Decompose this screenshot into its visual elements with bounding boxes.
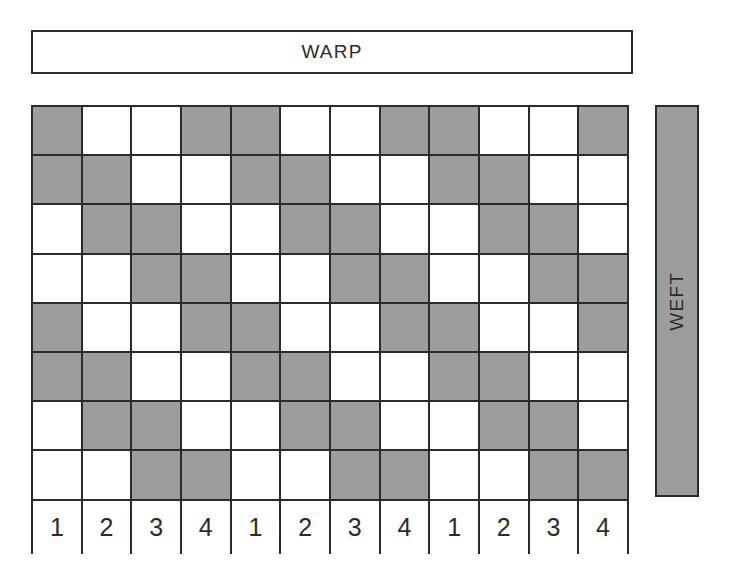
weave-cell <box>132 205 182 254</box>
weave-cell <box>83 205 133 254</box>
weave-cell <box>132 107 182 156</box>
weave-grid <box>31 105 629 501</box>
weave-cell <box>132 304 182 353</box>
weave-cell <box>281 353 331 402</box>
weave-cell <box>33 304 83 353</box>
column-number: 3 <box>132 501 182 554</box>
weave-cell <box>381 353 431 402</box>
weave-cell <box>430 205 480 254</box>
weave-cell <box>132 402 182 451</box>
weave-cell <box>182 156 232 205</box>
weave-grid-wrapper: 123412341234 <box>31 105 627 554</box>
column-number: 3 <box>530 501 580 554</box>
weave-cell <box>132 255 182 304</box>
weave-cell <box>579 451 629 500</box>
weave-cell <box>579 107 629 156</box>
weave-cell <box>331 353 381 402</box>
weave-cell <box>331 255 381 304</box>
weave-cell <box>281 156 331 205</box>
weave-cell <box>480 353 530 402</box>
weave-cell <box>33 107 83 156</box>
weave-cell <box>33 205 83 254</box>
weave-cell <box>530 156 580 205</box>
weave-cell <box>381 451 431 500</box>
weave-cell <box>579 304 629 353</box>
weave-cell <box>381 255 431 304</box>
weave-cell <box>182 451 232 500</box>
weave-cell <box>430 353 480 402</box>
weave-cell <box>430 156 480 205</box>
weave-cell <box>381 205 431 254</box>
weave-cell <box>132 156 182 205</box>
weave-cell <box>83 107 133 156</box>
weave-cell <box>232 451 282 500</box>
weave-cell <box>182 205 232 254</box>
column-number: 4 <box>381 501 431 554</box>
weave-cell <box>331 451 381 500</box>
warp-bar: WARP <box>31 30 633 74</box>
weave-cell <box>281 205 331 254</box>
weave-cell <box>530 402 580 451</box>
weft-label: WEFT <box>666 272 688 331</box>
weave-cell <box>530 451 580 500</box>
column-number: 2 <box>480 501 530 554</box>
weave-cell <box>331 304 381 353</box>
weave-cell <box>430 255 480 304</box>
weave-cell <box>182 255 232 304</box>
weave-cell <box>281 402 331 451</box>
weave-cell <box>480 255 530 304</box>
weave-cell <box>33 402 83 451</box>
weave-cell <box>480 402 530 451</box>
weave-cell <box>381 304 431 353</box>
weave-cell <box>232 156 282 205</box>
column-number: 4 <box>579 501 629 554</box>
weave-cell <box>33 353 83 402</box>
weave-cell <box>232 304 282 353</box>
weave-cell <box>83 402 133 451</box>
weave-cell <box>232 353 282 402</box>
warp-label: WARP <box>301 41 362 63</box>
weave-cell <box>579 156 629 205</box>
column-number: 2 <box>83 501 133 554</box>
weave-cell <box>281 304 331 353</box>
column-number: 1 <box>33 501 83 554</box>
weave-cell <box>381 107 431 156</box>
weave-cell <box>33 156 83 205</box>
weave-cell <box>281 255 331 304</box>
weave-cell <box>281 451 331 500</box>
weave-cell <box>33 255 83 304</box>
weave-cell <box>530 353 580 402</box>
column-number: 3 <box>331 501 381 554</box>
weave-cell <box>331 205 381 254</box>
weave-cell <box>430 304 480 353</box>
weave-cell <box>232 205 282 254</box>
weave-cell <box>83 255 133 304</box>
column-number: 4 <box>182 501 232 554</box>
weave-cell <box>83 353 133 402</box>
weave-cell <box>83 451 133 500</box>
weave-cell <box>430 451 480 500</box>
weave-cell <box>331 156 381 205</box>
weave-cell <box>331 107 381 156</box>
weave-cell <box>480 156 530 205</box>
weave-cell <box>381 156 431 205</box>
weave-cell <box>232 107 282 156</box>
weave-cell <box>480 205 530 254</box>
weave-cell <box>530 304 580 353</box>
weave-cell <box>83 156 133 205</box>
weave-cell <box>579 205 629 254</box>
weave-cell <box>232 255 282 304</box>
weave-cell <box>132 451 182 500</box>
weave-cell <box>182 402 232 451</box>
weave-cell <box>480 304 530 353</box>
weave-cell <box>530 255 580 304</box>
weave-cell <box>430 107 480 156</box>
weave-cell <box>430 402 480 451</box>
weave-cell <box>579 255 629 304</box>
weave-cell <box>83 304 133 353</box>
weave-cell <box>232 402 282 451</box>
column-number: 1 <box>232 501 282 554</box>
weave-cell <box>579 402 629 451</box>
weave-cell <box>182 353 232 402</box>
weave-cell <box>530 107 580 156</box>
